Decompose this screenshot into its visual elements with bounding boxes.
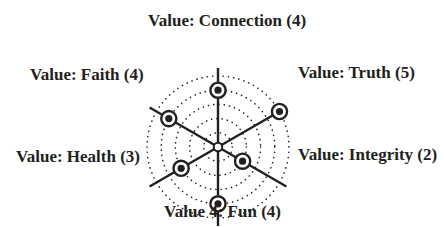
marker-integrity-dot <box>239 158 246 165</box>
label-integrity: Value: Integrity (2) <box>298 146 437 163</box>
label-connection: Value: Connection (4) <box>148 12 306 29</box>
marker-health-dot <box>178 165 185 172</box>
spoke-faith <box>150 108 218 148</box>
label-faith: Value: Faith (4) <box>30 66 144 83</box>
center-hub <box>214 143 222 151</box>
marker-faith-dot <box>165 115 172 122</box>
label-health: Value: Health (3) <box>16 148 140 165</box>
marker-connection-dot <box>214 87 221 94</box>
spoke-integrity <box>218 147 286 187</box>
marker-truth-dot <box>276 108 283 115</box>
label-fun: Value 4: Fun (4) <box>164 203 281 220</box>
label-truth: Value: Truth (5) <box>298 64 415 81</box>
values-radar-diagram: Value: Connection (4) Value: Truth (5) V… <box>0 0 444 227</box>
radar-chart <box>0 0 444 227</box>
